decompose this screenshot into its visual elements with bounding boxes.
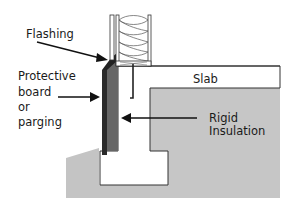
- label-protective-3: or: [18, 100, 30, 114]
- label-slab: Slab: [193, 72, 218, 86]
- label-insulation: Insulation: [209, 124, 265, 138]
- label-protective-2: board: [18, 85, 51, 99]
- label-rigid: Rigid: [209, 111, 238, 125]
- label-protective-4: parging: [18, 115, 62, 129]
- label-protective-1: Protective: [18, 69, 76, 83]
- protective-board-arrow: [58, 92, 100, 102]
- wall-stud-inner: [148, 15, 151, 66]
- foundation-diagram: Flashing Protective board or parging Sla…: [0, 0, 293, 211]
- rigid-insulation: [107, 60, 118, 151]
- protective-board: [102, 70, 107, 155]
- wall-sheathing: [110, 15, 114, 60]
- sub-base: [150, 90, 280, 198]
- wall-stud-outer: [116, 15, 119, 66]
- label-flashing: Flashing: [26, 27, 74, 41]
- batt-insulation: [119, 16, 148, 62]
- flashing-arrow: [37, 42, 108, 62]
